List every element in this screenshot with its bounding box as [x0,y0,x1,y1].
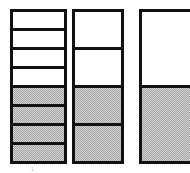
segment-empty [142,12,190,88]
bar-halves [139,9,190,164]
figure-caption: 1 [31,167,34,172]
fraction-bars-figure: 1 [0,0,190,173]
segment-filled [142,88,190,161]
segment-filled [13,126,64,145]
bar-eighths [10,9,67,164]
segment-filled [13,107,64,126]
segment-empty [13,50,64,69]
segment-filled [13,88,64,107]
segment-empty [13,31,64,50]
segment-empty [75,12,121,50]
segment-filled [13,145,64,161]
segment-empty [13,12,64,31]
segment-filled [75,88,121,126]
bar-fourths [72,9,124,164]
segment-filled [75,126,121,161]
segment-empty [13,69,64,88]
segment-empty [75,50,121,88]
